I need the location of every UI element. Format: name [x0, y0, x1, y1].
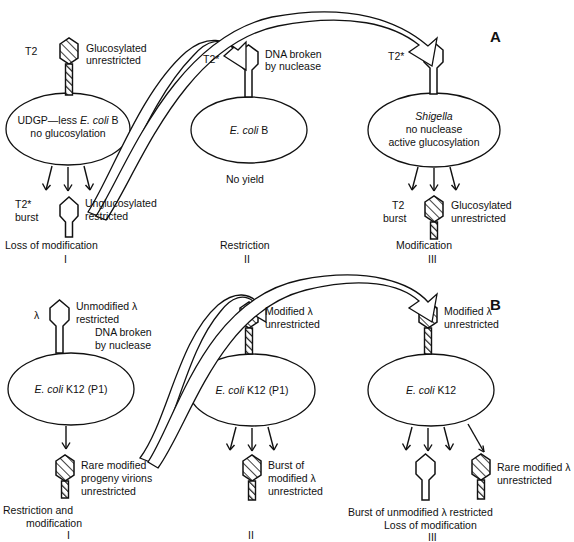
annotation-b1-input-3: DNA broken [95, 326, 152, 339]
restriction-modification-diagram: A T2 Glucosylated unrestricted UDGP—less… [0, 0, 574, 542]
host-b2-italic: E. coli [216, 384, 245, 396]
phage-icon-a1-input [60, 38, 78, 95]
host-label-a1-line2: no glucosylation [8, 127, 128, 140]
phage-label-a1-input: T2 [25, 45, 37, 58]
annotation-a1-input-2: unrestricted [86, 54, 141, 67]
annotation-a1-output-2: restricted [85, 210, 128, 223]
host-label-a3-line3: active glucosylation [366, 136, 502, 149]
host-b3-italic: E. coli [406, 384, 435, 396]
host-label-a3-line1: Shigella [371, 110, 497, 123]
host-a2-suffix: B [258, 124, 268, 136]
burst-arrows-a1 [43, 166, 94, 191]
host-b2-suffix: K12 (P1) [244, 384, 288, 396]
phage-icon-b1-input [50, 300, 69, 353]
burst-arrows-a3 [409, 167, 460, 191]
output-label-a3-line2: burst [383, 212, 406, 225]
annotation-b2-input-2: unrestricted [265, 318, 320, 331]
host-b3-suffix: K12 [434, 384, 456, 396]
phage-icon-b3-output-open [416, 454, 435, 500]
roman-b3: III [428, 531, 437, 542]
phage-icon-b3-output-hatched [472, 454, 490, 499]
annotation-b2-output-2: modified λ [268, 472, 316, 485]
roman-b2: II [248, 529, 254, 541]
annotation-b1-output-2: progeny virions [81, 472, 152, 485]
annotation-a1-output-1: Unglucosylated [85, 197, 157, 210]
host-b1-italic: E. coli [35, 383, 64, 395]
burst-arrows-b3 [403, 424, 485, 452]
annotation-b3-input-1: Modified λ [444, 305, 492, 318]
annotation-b2-output-3: unrestricted [268, 485, 323, 498]
annotation-a1-input-1: Glucosylated [86, 42, 147, 55]
output-label-a3-line1: T2 [392, 199, 404, 212]
phage-icon-b2-output [243, 455, 261, 500]
roman-a1: I [64, 253, 67, 265]
caption-a3: Modification [396, 239, 452, 252]
annotation-b2-input-1: Modified λ [265, 305, 313, 318]
host-a2-italic: E. coli [230, 124, 259, 136]
host-b1-suffix: K12 (P1) [63, 383, 107, 395]
caption-a1: Loss of modification [5, 239, 98, 252]
phage-icon-b1-output [56, 455, 74, 498]
annotation-a2-input-2: by nuclease [265, 60, 321, 73]
caption-b3-line2: Loss of modification [384, 519, 477, 532]
annotation-b2-output-1: Burst of [268, 459, 304, 472]
annotation-b3-output-2: unrestricted [497, 474, 552, 487]
annotation-b1-input-1: Unmodified λ [76, 300, 137, 313]
burst-arrows-b2 [227, 427, 278, 451]
phage-icon-a3-output [425, 196, 443, 239]
host-label-b2: E. coli K12 (P1) [192, 384, 312, 397]
caption-b1-line2: modification [26, 517, 82, 530]
panel-letter-a: A [490, 28, 501, 45]
host-a1-italic: E. coli [80, 114, 109, 126]
caption-a2: Restriction [220, 239, 270, 252]
roman-a3: III [428, 253, 437, 265]
burst-arrows-b1 [62, 426, 70, 449]
caption-b3-line1: Burst of unmodified λ restricted [348, 506, 493, 519]
host-label-a3-line2: no nuclease [371, 123, 497, 136]
annotation-a2-input-1: DNA broken [265, 48, 322, 61]
transfer-arrow-b-1to3 [148, 275, 437, 468]
host-label-b1: E. coli K12 (P1) [11, 383, 131, 396]
phage-icon-a1-output [60, 197, 78, 237]
roman-b1: I [67, 529, 70, 541]
phage-label-b1-input: λ [34, 309, 39, 322]
roman-a2: II [244, 253, 250, 265]
annotation-b1-output-1: Rare modified [81, 459, 146, 472]
caption-b1-line1: Restriction and [3, 504, 73, 517]
annotation-a3-output-2: unrestricted [451, 212, 506, 225]
host-a1-suffix: B [109, 114, 119, 126]
phage-label-a2-input: T2* [203, 53, 219, 66]
annotation-b3-input-2: unrestricted [444, 318, 499, 331]
output-label-a1-line2: burst [15, 211, 38, 224]
annotation-b1-output-3: unrestricted [81, 485, 136, 498]
host-a1-prefix: UDGP—less [18, 114, 80, 126]
host-label-b3: E. coli K12 [376, 384, 486, 397]
annotation-b1-input-4: by nuclease [95, 339, 151, 352]
phage-label-a3-input: T2* [388, 50, 404, 63]
no-yield-label-a2: No yield [226, 173, 264, 186]
host-label-a2: E. coli B [192, 124, 306, 137]
output-label-a1-line1: T2* [15, 198, 31, 211]
annotation-a3-output-1: Glucosylated [451, 199, 512, 212]
annotation-b1-input-2: restricted [76, 313, 119, 326]
annotation-b3-output-1: Rare modified λ [497, 461, 571, 474]
host-label-a1-line1: UDGP—less E. coli B [8, 114, 128, 127]
